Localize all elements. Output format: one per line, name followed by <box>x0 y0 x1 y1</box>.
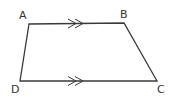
vertex-label-b: B <box>120 8 128 21</box>
vertex-label-d: D <box>11 83 19 96</box>
trapezoid-abcd <box>20 23 157 81</box>
vertex-label-a: A <box>19 9 27 22</box>
trapezoid-diagram: A B C D <box>0 0 176 99</box>
vertex-label-c: C <box>157 83 165 96</box>
